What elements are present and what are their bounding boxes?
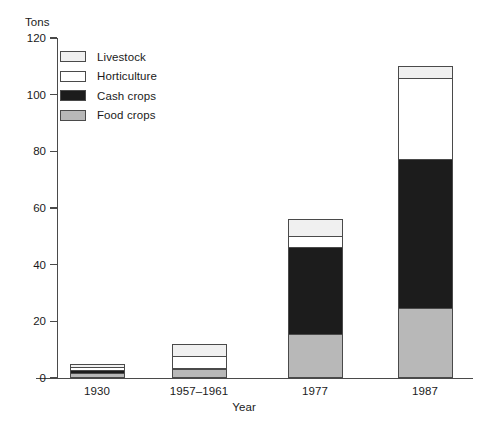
y-axis-tick bbox=[50, 321, 57, 322]
y-axis-tick-label: 20 bbox=[0, 315, 46, 327]
bar-segment-horticulture bbox=[173, 357, 226, 369]
bar-segment-horticulture bbox=[399, 79, 452, 161]
x-axis-line bbox=[36, 378, 473, 379]
legend-swatch-icon bbox=[60, 110, 86, 121]
y-axis-tick bbox=[50, 377, 57, 378]
legend-item-label: Livestock bbox=[97, 51, 146, 63]
y-axis-tick bbox=[50, 94, 57, 95]
y-axis-line bbox=[57, 38, 58, 379]
bar-1987 bbox=[398, 66, 453, 378]
bar-segment-livestock bbox=[399, 67, 452, 78]
y-axis-tick-label: 40 bbox=[0, 259, 46, 271]
x-axis-title: Year bbox=[0, 401, 488, 413]
stacked-bar-chart: Tons 020406080100120 19301957–1961197719… bbox=[0, 0, 488, 423]
y-axis-tick-label: 60 bbox=[0, 202, 46, 214]
x-axis-label: 1957–1961 bbox=[170, 385, 228, 397]
y-axis-tick-label: 120 bbox=[0, 32, 46, 44]
legend-item-food-crops: Food crops bbox=[60, 106, 157, 126]
bar-1957-1961 bbox=[172, 344, 227, 378]
bar-segment-food-crops bbox=[399, 309, 452, 377]
legend-item-horticulture: Horticulture bbox=[60, 67, 157, 87]
bar-1930 bbox=[70, 364, 125, 378]
y-axis-tick bbox=[50, 264, 57, 265]
x-axis-label: 1930 bbox=[84, 385, 110, 397]
legend-item-livestock: Livestock bbox=[60, 47, 157, 67]
x-axis-label: 1987 bbox=[412, 385, 438, 397]
legend-swatch-icon bbox=[60, 51, 86, 62]
bar-1977 bbox=[288, 219, 343, 378]
y-axis-unit-label: Tons bbox=[25, 16, 50, 28]
bar-segment-livestock bbox=[289, 220, 342, 237]
bar-segment-horticulture bbox=[289, 237, 342, 248]
y-axis-tick bbox=[50, 37, 57, 38]
y-axis-tick bbox=[50, 207, 57, 208]
legend-item-label: Food crops bbox=[97, 109, 156, 121]
legend-item-cash-crops: Cash crops bbox=[60, 86, 157, 106]
y-axis-tick-label: 100 bbox=[0, 89, 46, 101]
bar-segment-cash-crops bbox=[289, 248, 342, 335]
bar-segment-food-crops bbox=[71, 374, 124, 378]
y-axis-tick-label: 0 bbox=[0, 372, 46, 384]
y-axis-tick bbox=[50, 151, 57, 152]
bar-segment-food-crops bbox=[173, 370, 226, 377]
bar-segment-cash-crops bbox=[399, 160, 452, 309]
legend-item-label: Cash crops bbox=[97, 90, 156, 102]
bar-segment-food-crops bbox=[289, 335, 342, 377]
legend: LivestockHorticultureCash cropsFood crop… bbox=[60, 47, 157, 125]
x-axis-label: 1977 bbox=[302, 385, 328, 397]
legend-item-label: Horticulture bbox=[97, 70, 157, 82]
y-axis-tick-label: 80 bbox=[0, 145, 46, 157]
bar-segment-livestock bbox=[173, 345, 226, 357]
legend-swatch-icon bbox=[60, 90, 86, 101]
legend-swatch-icon bbox=[60, 71, 86, 82]
